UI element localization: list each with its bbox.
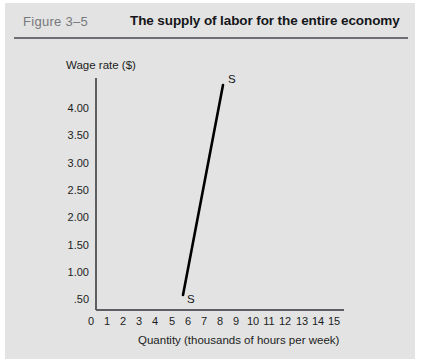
y-axis-title: Wage rate ($) <box>66 59 136 71</box>
supply-curve-chart <box>5 39 415 359</box>
y-tick-label-1: 1.00 <box>55 266 89 278</box>
figure-number: Figure 3–5 <box>23 14 88 29</box>
y-tick-label-5: 3.00 <box>55 157 89 169</box>
y-tick-label-2: 1.50 <box>55 239 89 251</box>
y-tick-label-7: 4.00 <box>55 102 89 114</box>
y-tick-label-3: 2.00 <box>55 211 89 223</box>
supply-curve-line <box>183 85 223 295</box>
y-tick-label-6: 3.50 <box>55 129 89 141</box>
figure-header: Figure 3–5 The supply of labor for the e… <box>5 3 415 39</box>
figure-title: The supply of labor for the entire econo… <box>130 13 400 28</box>
y-tick-label-0: .50 <box>55 293 89 305</box>
x-tick-label-15: 15 <box>324 315 344 327</box>
curve-label-upper: S <box>228 73 236 85</box>
x-axis-title: Quantity (thousands of hours per week) <box>138 334 339 346</box>
chart-plot-area: Wage rate ($) Quantity (thousands of hou… <box>5 39 415 359</box>
curve-label-lower: S <box>187 293 195 305</box>
y-tick-label-4: 2.50 <box>55 184 89 196</box>
figure-panel: Figure 3–5 The supply of labor for the e… <box>5 3 415 359</box>
